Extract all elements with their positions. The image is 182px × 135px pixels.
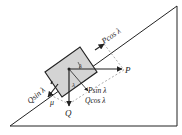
- label-q: Q: [65, 108, 72, 118]
- label-lambda-mid: λ: [71, 81, 75, 89]
- label-p-sin: Psin λ: [87, 86, 107, 95]
- label-p-cos: Pcos λ: [99, 26, 123, 46]
- center-point: [68, 68, 71, 71]
- p-cos-arrow: [95, 44, 104, 50]
- label-lambda-top: λ: [78, 62, 82, 70]
- label-p: P: [124, 65, 131, 75]
- inclined-plane-diagram: P Pcos λ Psin λ Qcos λ Q Qsin λ μ λ λ: [0, 0, 182, 135]
- label-q-cos: Qcos λ: [85, 96, 106, 105]
- label-mu: μ: [49, 98, 54, 107]
- label-q-sin: Qsin λ: [26, 85, 48, 105]
